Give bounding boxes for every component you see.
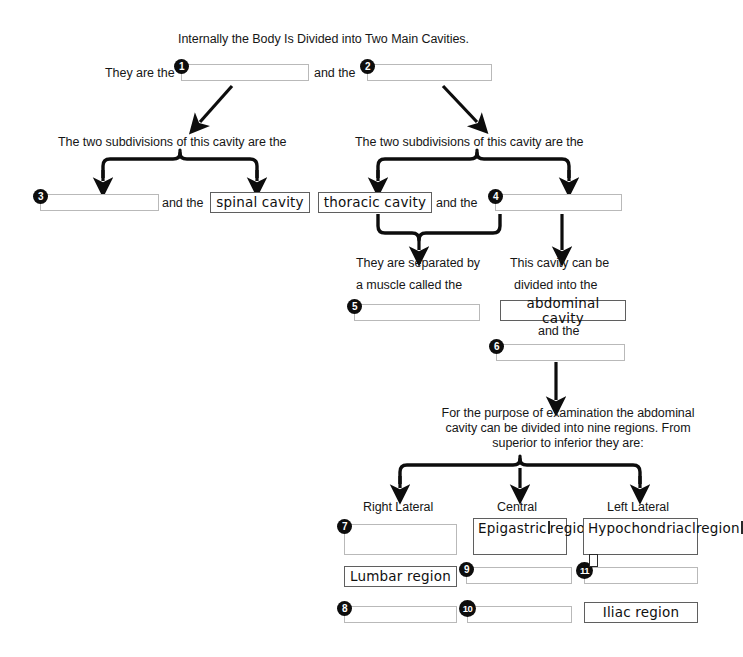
marker-7: 7 — [337, 519, 352, 534]
marker-6: 6 — [489, 339, 504, 354]
label-separated-by-line1: They are separated by — [356, 256, 480, 271]
answer-blank-2[interactable] — [367, 64, 492, 81]
marker-4: 4 — [488, 189, 503, 204]
left-split-brace — [103, 150, 257, 181]
marker-1: 1 — [174, 59, 189, 74]
label-left-branch: The two subdivisions of this cavity are … — [58, 135, 287, 150]
label-divided-line2: divided into the — [514, 278, 597, 293]
label-they-are-the: They are the — [105, 66, 175, 81]
page-title: Internally the Body Is Divided into Two … — [178, 32, 469, 47]
label-and-the-2: and the — [162, 196, 203, 211]
answer-hypochondriac-region[interactable]: Hypochondriacl region — [583, 518, 698, 555]
column-header-left-lateral: Left Lateral — [607, 500, 669, 515]
answer-blank-5[interactable] — [354, 304, 480, 321]
hypochondriac-text-line1: Hypochondriacl — [588, 521, 696, 536]
answer-spinal-cavity[interactable]: spinal cavity — [210, 192, 310, 213]
marker-9: 9 — [459, 562, 474, 577]
missing-glyph-icon-2 — [741, 521, 743, 534]
label-separated-by-line2: a muscle called the — [356, 278, 462, 293]
label-and-the-3: and the — [436, 196, 477, 211]
answer-blank-1[interactable] — [181, 64, 309, 81]
answer-lumbar-region[interactable]: Lumbar region — [344, 566, 457, 587]
answer-blank-4[interactable] — [495, 194, 622, 211]
answer-blank-8[interactable] — [344, 606, 457, 623]
answer-blank-7[interactable] — [344, 524, 457, 555]
label-and-the-4: and the — [538, 324, 579, 339]
column-header-right-lateral: Right Lateral — [363, 500, 433, 515]
epigastric-text-line1: Epigastric — [478, 521, 547, 536]
label-and-the-1: and the — [314, 66, 355, 81]
hypochondriac-text-line2: region — [696, 521, 740, 536]
missing-glyph-icon-3 — [589, 554, 598, 567]
label-right-branch: The two subdivisions of this cavity are … — [355, 135, 584, 150]
answer-abdominal-cavity[interactable]: abdominal cavity — [500, 300, 626, 321]
marker-3: 3 — [33, 189, 48, 204]
marker-8: 8 — [337, 601, 352, 616]
merge-brace-diaphragm — [378, 214, 500, 250]
answer-epigastric-region[interactable]: Epigastric region — [473, 518, 567, 555]
three-way-brace — [400, 456, 640, 488]
arrow-to-right-branch — [443, 86, 477, 122]
marker-10: 10 — [459, 600, 476, 617]
answer-blank-3[interactable] — [40, 194, 159, 211]
answer-iliac-region[interactable]: Iliac region — [584, 602, 698, 623]
label-divided-line1: This cavity can be — [510, 256, 609, 271]
column-header-central: Central — [497, 500, 537, 515]
answer-blank-6[interactable] — [496, 344, 625, 361]
answer-blank-10[interactable] — [467, 606, 572, 623]
answer-blank-9[interactable] — [466, 567, 572, 584]
right-split-brace — [378, 150, 569, 181]
paragraph-nine-regions: For the purpose of examination the abdom… — [437, 406, 699, 451]
arrow-to-left-branch — [200, 86, 232, 122]
marker-2: 2 — [360, 59, 375, 74]
answer-thoracic-cavity[interactable]: thoracic cavity — [318, 192, 432, 213]
answer-blank-11[interactable] — [584, 567, 698, 584]
marker-5: 5 — [347, 299, 362, 314]
